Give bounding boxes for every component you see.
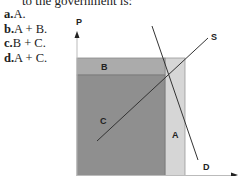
y-axis-arrow-icon — [75, 31, 80, 38]
y-axis-label: P — [76, 17, 82, 27]
region-a-label: A — [172, 130, 179, 140]
supply-label: S — [211, 32, 217, 42]
supply-demand-diagram: P S D B C A — [0, 0, 238, 176]
demand-label: D — [203, 162, 210, 172]
x-axis-arrow-icon — [231, 173, 238, 177]
region-c-label: C — [100, 116, 107, 126]
region-b — [77, 58, 165, 75]
region-b-label: B — [101, 62, 108, 72]
